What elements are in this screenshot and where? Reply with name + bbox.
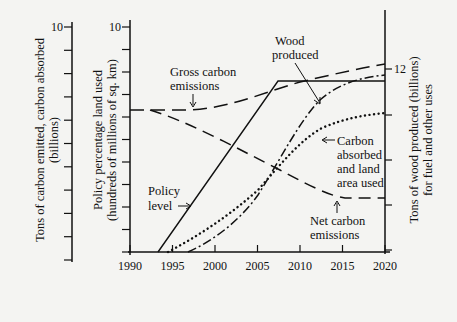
left-outer-top-tick-label: 10 [51, 20, 63, 34]
annotation-wood-produced: Wood produced [272, 34, 320, 104]
svg-text:emissions: emissions [310, 228, 359, 242]
right-axis-title-line1: Tons of wood produced (billions) [407, 56, 421, 223]
left-outer-axis-title-line2: (billions) [47, 117, 61, 163]
x-tick-label: 2000 [203, 259, 227, 273]
svg-text:Gross carbon: Gross carbon [170, 65, 237, 79]
annotation-policy-level: Policy level [148, 184, 191, 213]
left-inner-axis-title-line1: Policy percentage land used [91, 69, 105, 210]
chart-canvas: 10 Tons of carbon emitted, carbon absorb… [0, 0, 457, 322]
svg-text:Policy: Policy [148, 184, 181, 198]
svg-text:produced: produced [272, 48, 319, 62]
x-tick-label: 2020 [373, 259, 397, 273]
x-tick-label: 2015 [331, 259, 355, 273]
x-tick-label: 2010 [288, 259, 312, 273]
svg-text:and land: and land [337, 162, 380, 176]
series-gross-carbon-emissions [130, 64, 385, 110]
svg-text:Net carbon: Net carbon [310, 214, 366, 228]
right-axis-title-line2: for fuel and other uses [421, 84, 435, 196]
svg-text:area used: area used [337, 176, 385, 190]
right-axis-tick-label-12: 12 [394, 62, 406, 76]
left-outer-axis-title-line1: Tons of carbon emitted, carbon absorbed [33, 37, 47, 242]
left-inner-axis-title-line2: (hundreds of millions of sq. km) [105, 59, 119, 221]
svg-text:absorbed: absorbed [337, 148, 383, 162]
svg-text:emissions: emissions [170, 79, 219, 93]
x-tick-label: 2005 [246, 259, 270, 273]
right-axis: 12 Tons of wood produced (billions) for … [385, 10, 435, 254]
left-outer-axis: 10 Tons of carbon emitted, carbon absorb… [33, 20, 72, 262]
svg-text:level: level [148, 199, 173, 213]
svg-text:Wood: Wood [275, 34, 305, 48]
annotation-carbon-absorbed: Carbon absorbed and land area used [322, 134, 385, 190]
left-inner-axis: 10 Policy percentage land used (hundreds… [91, 20, 130, 255]
svg-text:Carbon: Carbon [337, 134, 375, 148]
x-tick-label: 1995 [161, 259, 185, 273]
annotation-net-carbon-emissions: Net carbon emissions [310, 201, 366, 242]
x-tick-label: 1990 [118, 259, 142, 273]
annotation-gross-carbon-emissions: Gross carbon emissions [170, 65, 237, 107]
left-inner-top-tick-label: 10 [109, 20, 121, 34]
